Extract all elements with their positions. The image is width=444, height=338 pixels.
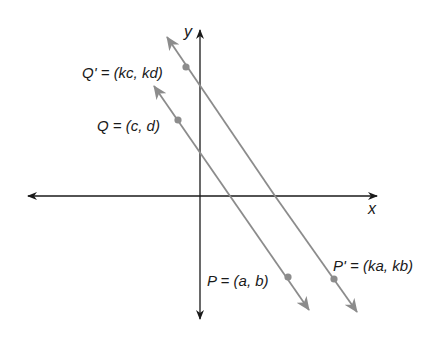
diagram-canvas: y x Q' = (kc, kd) Q = (c, d) P = (a, b) … bbox=[0, 0, 444, 338]
y-axis-label: y bbox=[183, 23, 193, 40]
point-p-prime bbox=[330, 275, 337, 282]
point-q-prime bbox=[182, 63, 189, 70]
x-axis-label: x bbox=[367, 200, 377, 217]
coordinate-plane: y x Q' = (kc, kd) Q = (c, d) P = (a, b) … bbox=[0, 0, 444, 338]
point-q bbox=[174, 116, 181, 123]
label-p: P = (a, b) bbox=[207, 272, 269, 289]
label-p-prime: P' = (ka, kb) bbox=[333, 257, 413, 274]
line-p-prime-q-prime bbox=[167, 37, 357, 312]
label-q-prime: Q' = (kc, kd) bbox=[82, 64, 163, 81]
label-q: Q = (c, d) bbox=[97, 117, 160, 134]
point-p bbox=[284, 273, 291, 280]
